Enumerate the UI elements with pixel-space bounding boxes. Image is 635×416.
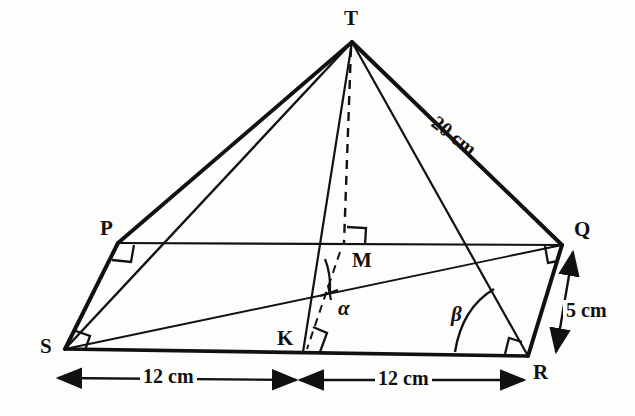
angle-label-alpha: α [338,298,350,319]
vertex-label-Q: Q [574,219,590,240]
dimension-label-12cm-right: 12 cm [375,368,432,388]
vertex-label-T: T [344,8,358,29]
right-angle-R [505,338,522,354]
edge-TS [65,42,352,349]
geometry-canvas [0,0,635,416]
vertex-label-R: R [533,362,548,383]
vertex-label-M: M [352,250,372,271]
edge-PQ [118,243,562,245]
geometry-diagram: T P Q S R M K α β 20 cm 5 cm 12 cm 12 cm [0,0,635,416]
vertex-label-K: K [277,328,293,349]
edge-SP [65,243,118,349]
angle-label-beta: β [451,304,462,325]
edge-TR [352,42,528,356]
dimension-label-5cm: 5 cm [563,300,610,320]
edge-TP [118,42,352,243]
edge-SQ [65,245,562,349]
vertex-label-P: P [100,218,113,239]
right-angle-M [347,227,366,245]
dimension-label-12cm-left: 12 cm [140,366,197,386]
vertex-label-S: S [40,336,52,357]
edge-RS [65,349,528,356]
right-angle-K [313,327,327,352]
